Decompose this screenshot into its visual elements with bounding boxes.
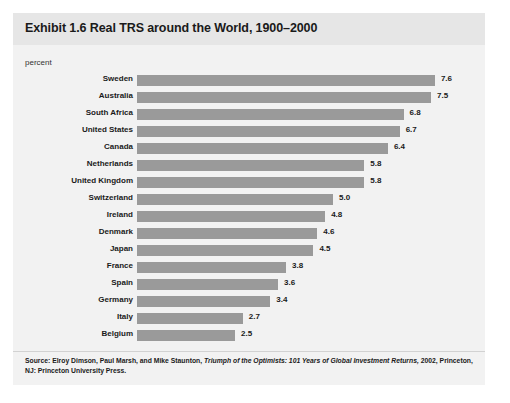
bar-row: Japan4.5 — [13, 242, 485, 259]
bar-category-label: France — [107, 261, 133, 270]
bar-chart-plot-area: Sweden7.6Australia7.5South Africa6.8Unit… — [13, 72, 485, 342]
bar-category-label: Japan — [110, 244, 133, 253]
bar-value-label: 4.6 — [323, 227, 334, 236]
bar-row: Australia7.5 — [13, 89, 485, 106]
bar-category-label: Australia — [99, 91, 133, 100]
page-title: Exhibit 1.6 Real TRS around the World, 1… — [25, 21, 317, 35]
bar-row: Denmark4.6 — [13, 225, 485, 242]
bar-row: Ireland4.8 — [13, 208, 485, 225]
bar-category-label: United States — [82, 125, 133, 134]
bar-row: United States6.7 — [13, 123, 485, 140]
bar-category-label: United Kingdom — [71, 176, 133, 185]
bar-value-label: 7.6 — [441, 74, 452, 83]
bar-value-label: 3.8 — [292, 261, 303, 270]
bar-value-label: 7.5 — [437, 91, 448, 100]
bar-value-label: 6.4 — [394, 142, 405, 151]
bar-category-label: Italy — [117, 312, 133, 321]
bar — [137, 279, 278, 290]
bar — [137, 160, 364, 171]
bar-value-label: 5.8 — [370, 176, 381, 185]
bar-category-label: Spain — [111, 278, 133, 287]
bar-value-label: 3.4 — [276, 295, 287, 304]
bar-category-label: Canada — [104, 142, 133, 151]
source-note: Source: Elroy Dimson, Paul Marsh, and Mi… — [25, 356, 477, 375]
figure-panel: Exhibit 1.6 Real TRS around the World, 1… — [13, 13, 485, 385]
bar-row: Italy2.7 — [13, 310, 485, 327]
bar-value-label: 3.6 — [284, 278, 295, 287]
bar-row: United Kingdom5.8 — [13, 174, 485, 191]
source-title-italic: Triumph of the Optimists: 101 Years of G… — [204, 357, 419, 364]
bar — [137, 143, 388, 154]
bar-category-label: Ireland — [107, 210, 133, 219]
bar-category-label: Netherlands — [87, 159, 133, 168]
bar-row: Netherlands5.8 — [13, 157, 485, 174]
bar-category-label: Switzerland — [89, 193, 133, 202]
bar-value-label: 5.8 — [370, 159, 381, 168]
bar — [137, 245, 313, 256]
bar-value-label: 4.5 — [319, 244, 330, 253]
source-divider — [13, 351, 485, 352]
bar-row: Canada6.4 — [13, 140, 485, 157]
bar-row: Belgium2.5 — [13, 327, 485, 344]
bar-value-label: 5.0 — [339, 193, 350, 202]
bar-value-label: 6.8 — [410, 108, 421, 117]
bar — [137, 313, 243, 324]
bar-category-label: Germany — [98, 295, 133, 304]
bar — [137, 228, 317, 239]
bar — [137, 75, 435, 86]
bar-row: Spain3.6 — [13, 276, 485, 293]
bar-value-label: 2.5 — [241, 329, 252, 338]
bar — [137, 330, 235, 341]
bar-row: France3.8 — [13, 259, 485, 276]
bar-category-label: South Africa — [86, 108, 133, 117]
bar-row: Switzerland5.0 — [13, 191, 485, 208]
bar-row: Germany3.4 — [13, 293, 485, 310]
bar-value-label: 6.7 — [406, 125, 417, 134]
bar-value-label: 4.8 — [331, 210, 342, 219]
bar — [137, 177, 364, 188]
bar-value-label: 2.7 — [249, 312, 260, 321]
bar — [137, 126, 400, 137]
title-band: Exhibit 1.6 Real TRS around the World, 1… — [13, 13, 485, 45]
source-prefix: Source: Elroy Dimson, Paul Marsh, and Mi… — [25, 357, 204, 364]
bar-row: South Africa6.8 — [13, 106, 485, 123]
axis-unit-label: percent — [25, 58, 52, 67]
bar-category-label: Denmark — [99, 227, 133, 236]
bar-category-label: Belgium — [101, 329, 133, 338]
bar — [137, 92, 431, 103]
bar — [137, 296, 270, 307]
bar-category-label: Sweden — [103, 74, 133, 83]
bar-row: Sweden7.6 — [13, 72, 485, 89]
bar — [137, 109, 404, 120]
bar — [137, 262, 286, 273]
bar — [137, 211, 325, 222]
bar — [137, 194, 333, 205]
